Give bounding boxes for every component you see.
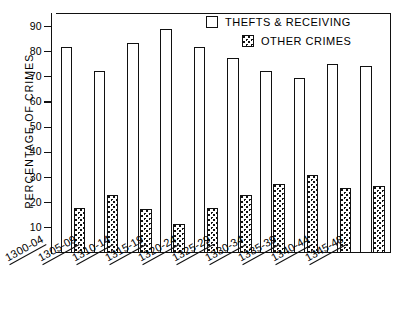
y-axis-line bbox=[51, 13, 52, 254]
y-axis-tick-label: 20 bbox=[20, 197, 42, 207]
bar-group bbox=[357, 14, 390, 253]
legend-label-thefts-receiving: THEFTS & RECEIVING bbox=[225, 16, 351, 28]
legend-swatch-stippled-icon bbox=[242, 35, 254, 47]
y-axis-tick bbox=[44, 26, 52, 27]
y-axis-tick-label: 70 bbox=[20, 71, 42, 81]
bar-group bbox=[124, 14, 157, 253]
bar-thefts-receiving bbox=[327, 64, 339, 253]
bar-chart-figure: PERCENTAGE OF CRIMES 908070605040302010 … bbox=[0, 0, 404, 318]
y-axis-tick bbox=[44, 127, 52, 128]
bar-group bbox=[157, 14, 190, 253]
y-axis-tick bbox=[44, 202, 52, 203]
y-axis-tick bbox=[44, 177, 52, 178]
legend-item-other-crimes: OTHER CRIMES bbox=[242, 35, 351, 47]
bar-group bbox=[57, 14, 90, 253]
bar-thefts-receiving bbox=[94, 71, 106, 253]
y-axis-tick-label: 80 bbox=[20, 46, 42, 56]
bar-thefts-receiving bbox=[194, 47, 206, 253]
y-axis-tick bbox=[44, 227, 52, 228]
y-axis-tick bbox=[44, 51, 52, 52]
x-axis-tick-labels: 1300-041305-091310-141315-191320-241325-… bbox=[0, 253, 404, 318]
bar-thefts-receiving bbox=[227, 58, 239, 253]
bar-thefts-receiving bbox=[360, 66, 372, 253]
y-axis-tick-label: 40 bbox=[20, 146, 42, 156]
y-axis-tick-label: 30 bbox=[20, 172, 42, 182]
chart-legend: THEFTS & RECEIVING OTHER CRIMES bbox=[206, 16, 351, 54]
bar-thefts-receiving bbox=[294, 78, 306, 253]
legend-swatch-open-icon bbox=[206, 16, 218, 28]
legend-item-thefts-receiving: THEFTS & RECEIVING bbox=[206, 16, 351, 28]
y-axis-tick-label: 60 bbox=[20, 96, 42, 106]
y-axis-tick bbox=[44, 152, 52, 153]
y-axis-tick-label: 10 bbox=[20, 222, 42, 232]
bar-group bbox=[90, 14, 123, 253]
bar-thefts-receiving bbox=[260, 71, 272, 253]
y-axis-tick-label: 90 bbox=[20, 21, 42, 31]
y-axis-tick bbox=[44, 101, 52, 102]
y-axis-tick-label: 50 bbox=[20, 121, 42, 131]
legend-label-other-crimes: OTHER CRIMES bbox=[261, 35, 351, 47]
bar-thefts-receiving bbox=[127, 43, 139, 253]
bar-other-crimes bbox=[373, 186, 385, 253]
y-axis-tick bbox=[44, 76, 52, 77]
bar-thefts-receiving bbox=[61, 47, 73, 253]
bar-thefts-receiving bbox=[160, 29, 172, 253]
